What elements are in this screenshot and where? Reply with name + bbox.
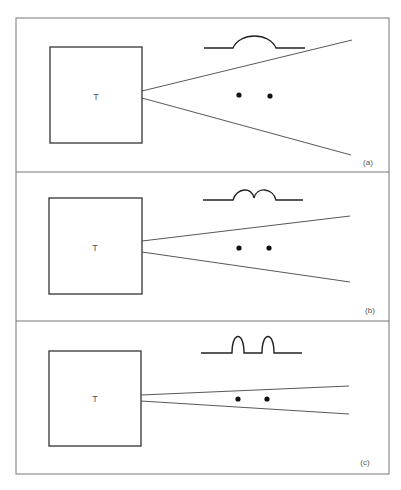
panel-b: T (b) <box>49 190 375 315</box>
target-dot-2 <box>266 245 271 250</box>
beam-upper-edge <box>142 40 352 91</box>
target-dot-2 <box>264 396 269 401</box>
target-dot-1 <box>236 92 241 97</box>
panel-label: (a) <box>363 158 373 167</box>
target-dot-2 <box>267 93 272 98</box>
echo-pulse-waveform <box>201 337 302 354</box>
beam-lower-edge <box>142 252 350 282</box>
outer-frame <box>16 18 389 474</box>
panel-label: (b) <box>365 306 375 315</box>
echo-pulse-waveform <box>204 36 305 48</box>
beam-lower-edge <box>142 98 351 155</box>
echo-pulse-waveform <box>203 190 303 200</box>
beam-upper-edge <box>141 386 349 395</box>
target-dot-1 <box>236 245 241 250</box>
panel-a: T (a) <box>50 36 373 167</box>
transducer-label: T <box>92 394 98 404</box>
transducer-label: T <box>93 92 99 102</box>
beam-resolution-diagram: T (a) T (b) T (c) <box>0 0 401 490</box>
panel-c: T (c) <box>49 337 370 468</box>
transducer-label: T <box>92 243 98 253</box>
panel-label: (c) <box>360 458 370 467</box>
target-dot-1 <box>235 396 240 401</box>
beam-upper-edge <box>142 216 350 241</box>
beam-lower-edge <box>141 401 349 414</box>
